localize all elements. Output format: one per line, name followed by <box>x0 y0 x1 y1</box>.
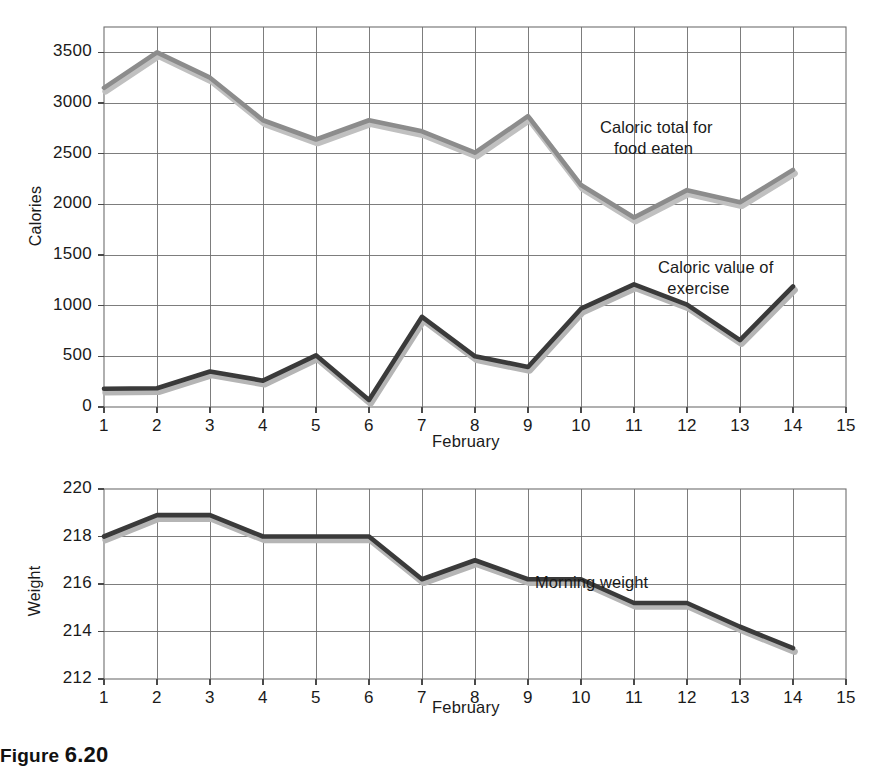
x-tick-label: 15 <box>821 688 871 708</box>
series-line-0 <box>104 515 793 648</box>
x-tick-label: 5 <box>291 416 341 436</box>
y-tick-label: 1000 <box>0 295 92 315</box>
annotation-caloric-value-of-exercise: Caloric value of exercise <box>658 257 773 299</box>
weight-chart: Weight February Morning weight 212214216… <box>0 462 887 724</box>
figure-caption: Figure 6.20 <box>0 742 108 768</box>
x-tick-label: 11 <box>609 416 659 436</box>
y-tick-label: 1500 <box>0 244 92 264</box>
calories-chart-canvas <box>0 0 887 462</box>
x-tick-label: 13 <box>715 688 765 708</box>
x-tick-label: 12 <box>662 416 712 436</box>
y-tick-label: 220 <box>0 478 92 498</box>
x-tick-label: 6 <box>344 688 394 708</box>
x-tick-label: 8 <box>450 688 500 708</box>
weight-chart-canvas <box>0 462 887 724</box>
x-tick-label: 3 <box>185 688 235 708</box>
x-tick-label: 14 <box>768 688 818 708</box>
x-tick-label: 8 <box>450 416 500 436</box>
x-tick-label: 7 <box>397 416 447 436</box>
x-tick-label: 14 <box>768 416 818 436</box>
x-tick-label: 10 <box>556 416 606 436</box>
x-tick-label: 2 <box>132 416 182 436</box>
x-tick-label: 1 <box>79 688 129 708</box>
x-tick-label: 9 <box>503 688 553 708</box>
y-tick-label: 3500 <box>0 41 92 61</box>
x-tick-label: 3 <box>185 416 235 436</box>
x-tick-label: 15 <box>821 416 871 436</box>
y-tick-label: 0 <box>0 396 92 416</box>
y-tick-label: 2500 <box>0 143 92 163</box>
x-tick-label: 2 <box>132 688 182 708</box>
y-tick-label: 2000 <box>0 193 92 213</box>
x-tick-label: 4 <box>238 688 288 708</box>
annotation-morning-weight: Morning weight <box>535 572 648 593</box>
figure-caption-prefix: Figure <box>0 745 59 766</box>
annotation-caloric-total-for-food-eaten: Caloric total for food eaten <box>600 117 713 159</box>
y-tick-label: 214 <box>0 621 92 641</box>
x-tick-label: 4 <box>238 416 288 436</box>
x-tick-label: 1 <box>79 416 129 436</box>
x-tick-label: 6 <box>344 416 394 436</box>
y-tick-label: 218 <box>0 526 92 546</box>
y-tick-label: 216 <box>0 573 92 593</box>
x-tick-label: 13 <box>715 416 765 436</box>
x-tick-label: 5 <box>291 688 341 708</box>
y-tick-label: 500 <box>0 345 92 365</box>
x-tick-label: 12 <box>662 688 712 708</box>
x-tick-label: 9 <box>503 416 553 436</box>
x-tick-label: 10 <box>556 688 606 708</box>
figure-caption-number: 6.20 <box>65 742 109 767</box>
y-tick-label: 212 <box>0 668 92 688</box>
x-tick-label: 7 <box>397 688 447 708</box>
x-tick-label: 11 <box>609 688 659 708</box>
y-tick-label: 3000 <box>0 92 92 112</box>
calories-chart: Calories February Caloric total for food… <box>0 0 887 462</box>
